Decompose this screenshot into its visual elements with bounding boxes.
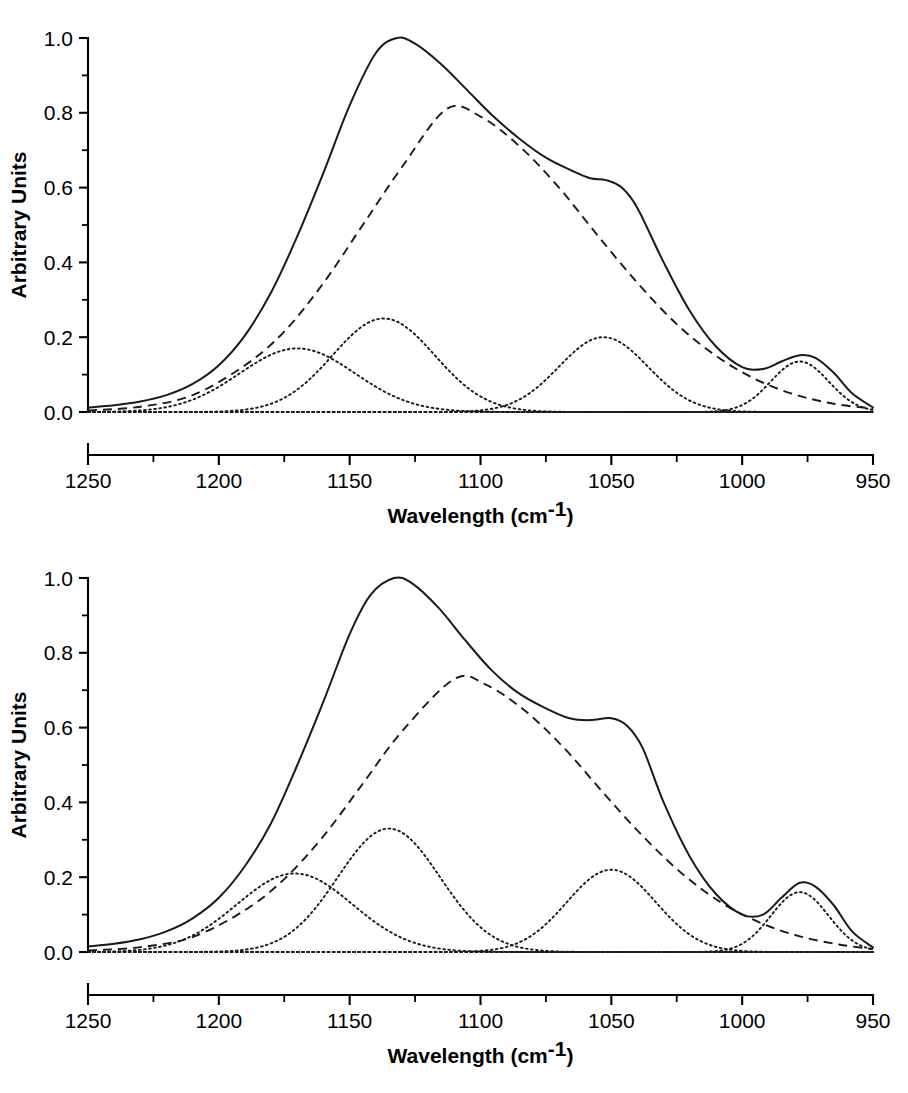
plot-area-bottom: 0.00.20.40.60.81.01250120011501100105010… bbox=[7, 567, 891, 1068]
x-tick-label: 1250 bbox=[65, 1009, 112, 1032]
x-axis-title: Wavelength (cm-1) bbox=[388, 497, 574, 527]
curve-measured-envelope bbox=[88, 38, 873, 408]
curve-component-3 bbox=[88, 870, 873, 952]
x-axis-title-close: ) bbox=[566, 504, 573, 527]
y-tick-label: 0.0 bbox=[44, 941, 73, 964]
plot-svg-top: 0.00.20.40.60.81.01250120011501100105010… bbox=[0, 0, 908, 546]
x-axis-title-superscript: -1 bbox=[548, 1037, 567, 1060]
spectrum-panel-top: 0.00.20.40.60.81.01250120011501100105010… bbox=[0, 0, 908, 546]
y-tick-label: 0.6 bbox=[44, 176, 73, 199]
curve-component-4 bbox=[88, 892, 873, 952]
x-axis-title-main: Wavelength (cm bbox=[388, 504, 548, 527]
y-tick-label: 0.4 bbox=[44, 251, 74, 274]
x-tick-label: 1150 bbox=[327, 469, 372, 492]
plot-area-top: 0.00.20.40.60.81.01250120011501100105010… bbox=[7, 27, 891, 528]
x-tick-label: 950 bbox=[855, 1009, 890, 1032]
y-tick-label: 0.0 bbox=[44, 401, 73, 424]
plot-svg-bottom: 0.00.20.40.60.81.01250120011501100105010… bbox=[0, 540, 908, 1086]
x-tick-label: 1100 bbox=[458, 469, 503, 492]
curve-component-2 bbox=[88, 318, 873, 412]
x-tick-label: 1100 bbox=[458, 1009, 503, 1032]
x-tick-label: 950 bbox=[855, 469, 890, 492]
x-axis-title-main: Wavelength (cm bbox=[388, 1044, 548, 1067]
y-tick-label: 0.6 bbox=[44, 716, 73, 739]
spectra-figure: 0.00.20.40.60.81.01250120011501100105010… bbox=[0, 0, 908, 1093]
y-tick-label: 0.2 bbox=[44, 326, 73, 349]
spectrum-panel-bottom: 0.00.20.40.60.81.01250120011501100105010… bbox=[0, 540, 908, 1086]
y-tick-label: 0.4 bbox=[44, 791, 74, 814]
x-tick-label: 1050 bbox=[588, 1009, 635, 1032]
y-tick-label: 0.2 bbox=[44, 866, 73, 889]
x-tick-label: 1000 bbox=[719, 1009, 766, 1032]
y-tick-label: 0.8 bbox=[44, 101, 73, 124]
y-axis-title: Arbitrary Units bbox=[7, 691, 30, 838]
x-tick-label: 1000 bbox=[719, 469, 766, 492]
curve-component-1 bbox=[88, 348, 873, 412]
y-axis-title: Arbitrary Units bbox=[7, 151, 30, 298]
x-tick-label: 1200 bbox=[195, 1009, 242, 1032]
x-axis-title: Wavelength (cm-1) bbox=[388, 1037, 574, 1067]
y-tick-label: 1.0 bbox=[44, 567, 73, 590]
x-axis-title-close: ) bbox=[566, 1044, 573, 1067]
x-tick-label: 1050 bbox=[588, 469, 635, 492]
curve-component-2 bbox=[88, 829, 873, 952]
y-tick-label: 1.0 bbox=[44, 27, 73, 50]
curve-component-1 bbox=[88, 873, 873, 952]
x-axis-title-superscript: -1 bbox=[548, 497, 567, 520]
x-tick-label: 1150 bbox=[327, 1009, 372, 1032]
x-tick-label: 1200 bbox=[195, 469, 242, 492]
curve-broad-underlying-band bbox=[88, 106, 873, 411]
curve-measured-envelope bbox=[88, 577, 873, 947]
x-tick-label: 1250 bbox=[65, 469, 112, 492]
y-tick-label: 0.8 bbox=[44, 641, 73, 664]
